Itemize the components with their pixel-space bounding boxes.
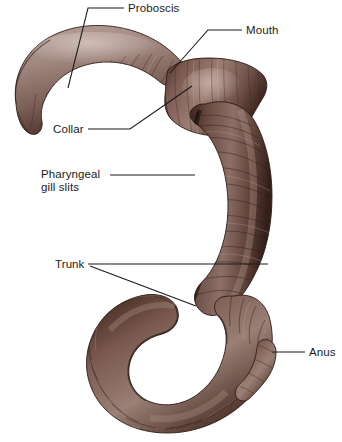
label-pharyngeal-gill-slits-line1: Pharyngeal: [41, 168, 100, 180]
label-proboscis: Proboscis: [128, 2, 180, 14]
anatomy-figure: Proboscis Mouth Collar Pharyngeal gill s…: [0, 0, 342, 442]
label-mouth: Mouth: [246, 24, 278, 36]
label-pharyngeal-gill-slits-line2: gill slits: [41, 181, 79, 193]
label-trunk: Trunk: [55, 258, 85, 270]
label-collar: Collar: [53, 123, 84, 135]
label-anus: Anus: [309, 346, 336, 358]
